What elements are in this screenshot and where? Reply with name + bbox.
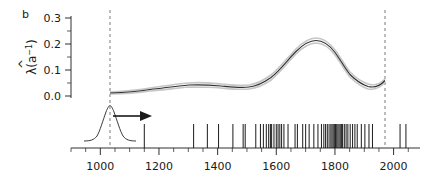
x-tick-label: 1400	[204, 160, 232, 173]
prior-density-bump	[84, 106, 136, 142]
time-direction-arrow	[113, 111, 152, 121]
confidence-band-lower	[110, 43, 385, 94]
y-tick-label-00: 0.0	[44, 90, 62, 103]
figure-panel-b: b 0.3 0.2 0.1 0.0 λ(a−1) ^	[0, 0, 429, 180]
y-title-hat: ^	[17, 59, 31, 69]
y-axis: 0.3 0.2 0.1 0.0	[44, 12, 72, 103]
x-tick-label: 1600	[262, 160, 290, 173]
y-axis-title: λ(a−1) ^	[17, 39, 39, 75]
panel-label: b	[22, 8, 29, 21]
x-tick-label: 1200	[145, 160, 173, 173]
x-axis: 100012001400160018002000	[71, 148, 420, 173]
x-tick-label: 1800	[321, 160, 349, 173]
y-tick-label-01: 0.1	[44, 64, 62, 77]
event-rug	[144, 124, 406, 148]
y-title-paren-close: )	[25, 39, 39, 44]
y-tick-label-02: 0.2	[44, 38, 62, 51]
y-tick-label-03: 0.3	[44, 12, 62, 25]
hazard-rate-chart: b 0.3 0.2 0.1 0.0 λ(a−1) ^	[0, 0, 429, 180]
y-title-superscript: −1	[25, 44, 34, 56]
x-tick-label: 1000	[86, 160, 114, 173]
x-tick-label: 2000	[380, 160, 408, 173]
